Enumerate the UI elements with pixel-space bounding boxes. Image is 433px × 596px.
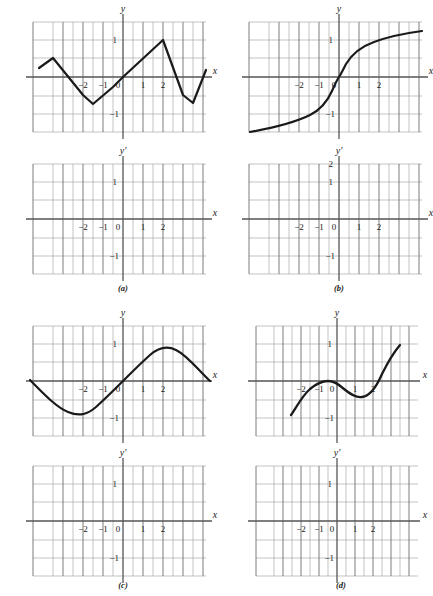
x-tick-label-zero: 0 <box>330 384 335 394</box>
y-tick-label-1: 1 <box>113 35 118 45</box>
plot-a-function: x y −2 −1 0 1 2 1 −1 <box>26 14 216 139</box>
x-tick-label-1: 1 <box>141 80 146 90</box>
x-tick-label-1: 1 <box>141 222 146 232</box>
plot-a-derivative: x y' −2 −1 0 1 2 1 −1 <box>26 156 216 281</box>
axis-label-y-prime: y' <box>119 145 127 156</box>
x-tick-label-neg1: −1 <box>98 384 108 394</box>
x-tick-label-neg2: −2 <box>294 222 304 232</box>
x-tick-label-neg1: −1 <box>98 80 108 90</box>
axis-label-x: x <box>428 65 433 76</box>
y-tick-label-neg1: −1 <box>324 413 334 423</box>
x-tick-label-neg2: −2 <box>78 80 88 90</box>
x-tick-label-2: 2 <box>377 222 382 232</box>
x-tick-label-neg2: −2 <box>296 524 306 534</box>
plot-c-derivative: x y' −2 −1 0 1 2 1 −1 <box>26 458 216 583</box>
panel-a: x y −2 −1 0 1 2 1 −1 <box>0 0 216 300</box>
axis-label-y-prime: y' <box>119 447 127 458</box>
curve-b-sigmoid <box>250 31 422 132</box>
axis-label-y-prime: y' <box>335 145 343 156</box>
x-tick-label-zero: 0 <box>116 524 121 534</box>
y-tick-label-1: 1 <box>113 339 118 349</box>
x-tick-label-neg1: −1 <box>314 80 324 90</box>
panel-b: x y −2 −1 0 1 2 1 −1 <box>216 0 433 300</box>
x-tick-label-neg2: −2 <box>78 524 88 534</box>
panel-caption-a: (a) <box>103 283 143 293</box>
plot-c-function: x y −2 −1 0 1 2 1 −1 <box>26 318 216 443</box>
y-tick-label-neg1: −1 <box>324 553 334 563</box>
plot-d-function: x y −2 −1 0 1 2 1 −1 <box>248 318 428 443</box>
panel-caption-d: (d) <box>321 580 361 590</box>
x-tick-label-zero: 0 <box>116 222 121 232</box>
x-tick-label-1: 1 <box>357 222 362 232</box>
plot-d-derivative: x y' −2 −1 0 1 2 1 −1 <box>248 458 428 583</box>
x-tick-label-2: 2 <box>161 222 166 232</box>
y-tick-label-neg1: −1 <box>109 251 119 261</box>
y-tick-label-neg1: −1 <box>325 251 335 261</box>
panel-caption-b: (b) <box>319 283 359 293</box>
y-tick-label-1: 1 <box>113 479 118 489</box>
x-tick-label-2: 2 <box>161 384 166 394</box>
y-tick-label-neg1: −1 <box>109 413 119 423</box>
x-tick-label-neg1: −1 <box>98 222 108 232</box>
y-tick-label-1: 1 <box>113 177 118 187</box>
axis-label-y: y <box>120 3 126 14</box>
y-tick-label-1: 1 <box>329 177 334 187</box>
x-tick-label-zero: 0 <box>330 524 335 534</box>
x-tick-label-1: 1 <box>141 384 146 394</box>
x-tick-label-neg2: −2 <box>296 384 306 394</box>
y-tick-label-1: 1 <box>328 339 333 349</box>
x-tick-label-1: 1 <box>141 524 146 534</box>
axis-label-y: y <box>120 307 126 318</box>
x-tick-label-neg1: −1 <box>314 524 324 534</box>
panel-c: x y −2 −1 0 1 2 1 −1 <box>0 300 216 596</box>
x-tick-label-2: 2 <box>161 80 166 90</box>
y-tick-label-neg1: −1 <box>109 553 119 563</box>
plot-b-derivative: x y' −2 −1 0 1 2 2 1 −1 <box>242 156 432 281</box>
panel-d: x y −2 −1 0 1 2 1 −1 <box>216 300 433 596</box>
x-tick-label-2: 2 <box>371 524 376 534</box>
y-tick-label-zero: 0 <box>332 222 337 232</box>
y-tick-label-neg1: −1 <box>109 109 119 119</box>
axis-label-y: y <box>334 307 340 318</box>
x-tick-label-2: 2 <box>377 80 382 90</box>
axis-label-x: x <box>428 207 433 218</box>
y-tick-label-1: 1 <box>329 35 334 45</box>
curve-d-cubic <box>291 345 400 415</box>
y-tick-label-1: 1 <box>328 479 333 489</box>
x-tick-label-neg2: −2 <box>294 80 304 90</box>
x-tick-label-neg2: −2 <box>78 384 88 394</box>
x-tick-label-neg2: −2 <box>78 222 88 232</box>
y-tick-label-neg1: −1 <box>325 109 335 119</box>
x-tick-label-1: 1 <box>353 524 358 534</box>
axis-label-y-prime: y' <box>333 447 341 458</box>
axis-label-y: y <box>336 3 342 14</box>
y-tick-label-2: 2 <box>329 159 334 169</box>
figure-sheet: x y −2 −1 0 1 2 1 −1 <box>0 0 433 596</box>
axis-label-x: x <box>422 509 428 520</box>
x-tick-label-1: 1 <box>353 384 358 394</box>
plot-b-function: x y −2 −1 0 1 2 1 −1 <box>242 14 432 139</box>
axis-label-x: x <box>422 369 428 380</box>
panel-caption-c: (c) <box>103 580 143 590</box>
x-tick-label-neg1: −1 <box>98 524 108 534</box>
x-tick-label-1: 1 <box>357 80 362 90</box>
x-tick-label-2: 2 <box>161 524 166 534</box>
x-tick-label-neg1: −1 <box>314 222 324 232</box>
